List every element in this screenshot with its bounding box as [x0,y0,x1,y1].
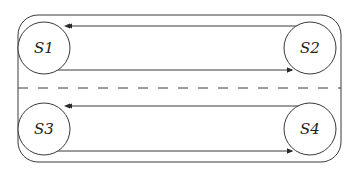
state-label: S4 [300,120,320,138]
arrowhead-into-s2 [287,68,293,73]
state-label: S3 [34,120,54,138]
state-label: S2 [300,39,320,57]
state-diagram: S1 S2 S3 S4 [0,0,355,169]
arrowhead-into-s3 [64,104,70,109]
arrowhead-into-s1 [64,24,70,29]
state-label: S1 [34,39,54,57]
state-s2: S2 [284,22,336,74]
state-s1: S1 [18,22,70,74]
state-s4: S4 [284,103,336,155]
arrowhead-into-s4 [287,149,293,154]
state-s3: S3 [18,103,70,155]
